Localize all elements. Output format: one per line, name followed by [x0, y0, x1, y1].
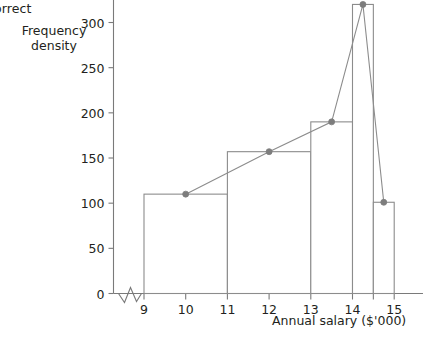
histogram-bar	[373, 202, 394, 293]
frequency-density-histogram: orrect Frequency density Annual salary (…	[0, 0, 443, 349]
frequency-polygon-point	[381, 199, 387, 205]
y-tick-label-200: 200	[81, 105, 105, 120]
y-tick-label-50: 50	[89, 241, 105, 256]
histogram-bar	[353, 4, 374, 293]
x-tick-label-11: 11	[219, 302, 235, 317]
histogram-bar	[144, 194, 227, 293]
y-tick-label-300: 300	[81, 15, 105, 30]
x-tick-label-9: 9	[140, 302, 148, 317]
histogram-bar	[227, 152, 310, 294]
frequency-polygon-point	[183, 191, 189, 197]
x-tick-label-13: 13	[303, 302, 319, 317]
histogram-bar	[311, 122, 353, 294]
frequency-polygon-point	[329, 119, 335, 125]
x-tick-label-14: 14	[345, 302, 361, 317]
x-axis-break-symbol	[119, 288, 142, 303]
y-tick-label-100: 100	[81, 196, 105, 211]
y-tick-label-250: 250	[81, 60, 105, 75]
y-tick-label-0: 0	[97, 286, 105, 301]
frequency-polygon-point	[360, 1, 366, 7]
frequency-polygon-point	[266, 149, 272, 155]
y-tick-label-150: 150	[81, 151, 105, 166]
x-tick-label-12: 12	[261, 302, 277, 317]
plot-area	[0, 0, 443, 349]
x-tick-label-10: 10	[178, 302, 194, 317]
x-tick-label-15: 15	[386, 302, 402, 317]
